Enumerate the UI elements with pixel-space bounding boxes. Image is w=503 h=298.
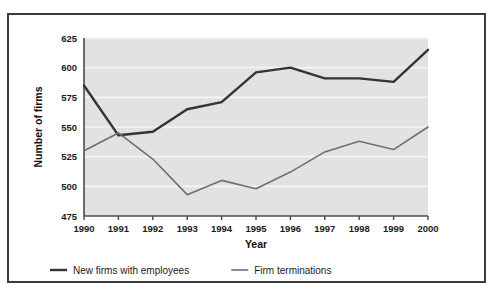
chart-figure: 4755005255505756006251990199119921993199… [0,0,503,298]
y-tick-label: 575 [61,92,78,103]
x-tick-label: 1998 [349,223,370,234]
x-tick-label: 1992 [142,223,163,234]
y-tick-label: 500 [61,181,77,192]
x-axis-tick-labels: 1990199119921993199419951996199719981999… [73,216,438,234]
x-tick-label: 1991 [108,223,130,234]
legend-label: Firm terminations [254,265,331,276]
x-tick-label: 1997 [314,223,335,234]
y-axis-tick-labels: 475500525550575600625 [61,33,78,222]
x-tick-label: 2000 [417,223,438,234]
legend-label: New firms with employees [73,265,189,276]
x-tick-label: 1996 [280,223,301,234]
y-tick-label: 525 [61,151,78,162]
y-axis-title: Number of firms [32,86,44,167]
x-tick-label: 1990 [73,223,94,234]
y-tick-label: 550 [61,122,77,133]
x-tick-label: 1993 [177,223,198,234]
y-tick-label: 600 [61,62,77,73]
x-axis-title: Year [245,238,267,250]
y-tick-label: 475 [61,211,78,222]
x-tick-label: 1994 [211,223,233,234]
y-tick-label: 625 [61,33,78,44]
chart-legend: New firms with employeesFirm termination… [50,265,331,276]
x-tick-label: 1995 [245,223,267,234]
line-chart: 4755005255505756006251990199119921993199… [0,0,503,298]
x-tick-label: 1999 [383,223,404,234]
